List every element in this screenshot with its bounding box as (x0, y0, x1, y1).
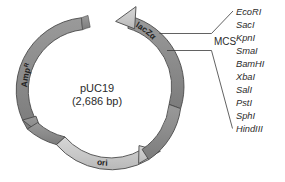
backbone-segment-right-lower (142, 104, 181, 159)
enzyme-item: SmaI (236, 46, 258, 56)
enzyme-item: EcoRI (236, 7, 262, 17)
lacZalpha-arc-body (128, 16, 184, 108)
enzyme-item: BamHI (236, 59, 265, 69)
ori-label: ori (96, 157, 107, 168)
plasmid-name: pUC19 (80, 82, 114, 94)
enzyme-item: XbaI (235, 72, 256, 82)
enzyme-item: SacI (236, 20, 255, 30)
backbone-segment-left-lower (27, 123, 65, 145)
enzyme-item: SphI (236, 111, 256, 121)
backbone-segment-top (81, 15, 90, 29)
ori-label-text: ori (96, 157, 107, 168)
plasmid-size: (2,686 bp) (72, 95, 122, 107)
lacZalpha-arrowhead (116, 7, 136, 29)
enzyme-item: HindIII (236, 124, 263, 134)
enzyme-item: PstI (236, 98, 252, 108)
plasmid-map-figure: AmpR lacZα ori pUC19 (2,686 bp) MCS E (0, 0, 285, 182)
mcs-enzyme-list: EcoRI SacI KpnI SmaI BamHI XbaI SalI Pst… (235, 7, 265, 134)
plasmid-diagram: AmpR lacZα ori pUC19 (2,686 bp) MCS E (0, 0, 285, 182)
enzyme-item: SalI (236, 85, 252, 95)
mcs-label: MCS (214, 36, 237, 47)
mcs-leader-upper (160, 11, 234, 34)
feature-arc-lacZalpha (116, 7, 184, 109)
enzyme-item: KpnI (236, 33, 256, 43)
